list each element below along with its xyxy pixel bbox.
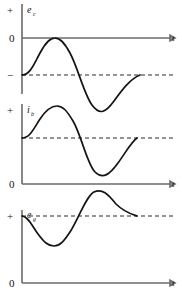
panel-eg-waveform <box>22 191 137 246</box>
panel-eg: + 0 e g t <box>7 191 175 289</box>
panel-ec-minus-label: − <box>7 69 13 81</box>
panel-ec: + 0 − e c t <box>7 4 175 112</box>
panel-ib: + 0 i b t <box>7 104 175 190</box>
panel-ib-plus-label: + <box>7 104 13 116</box>
panel-ib-series-label-sub: b <box>31 111 34 117</box>
panel-ib-zero-label: 0 <box>9 178 15 190</box>
panel-eg-plus-label: + <box>7 210 13 222</box>
panel-ec-series-label-sub: c <box>33 11 36 17</box>
panel-ib-series-label: i <box>27 104 30 115</box>
panel-eg-series-label-sub: g <box>33 216 36 222</box>
panel-eg-zero-label: 0 <box>9 277 15 289</box>
panel-ec-series-label: e <box>27 4 32 15</box>
panel-ec-zero-label: 0 <box>9 32 15 44</box>
waveform-svg: + 0 − e c t + 0 i b t + 0 <box>0 0 182 294</box>
waveform-figure: + 0 − e c t + 0 i b t + 0 <box>0 0 182 294</box>
panel-ec-plus-label: + <box>7 4 13 16</box>
panel-ib-waveform <box>22 106 137 176</box>
panel-eg-series-label: e <box>27 209 32 220</box>
